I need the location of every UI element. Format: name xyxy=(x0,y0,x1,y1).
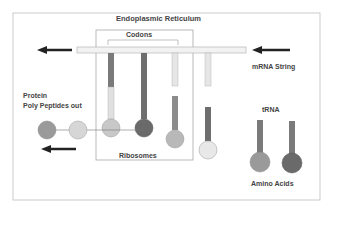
trna-label: tRNA xyxy=(262,106,280,113)
mrna-label: mRNA String xyxy=(252,63,295,70)
er-label: Endoplasmic Reticulum xyxy=(116,14,201,23)
amino-acids-label: Amino Acids xyxy=(251,180,294,187)
trna-1 xyxy=(102,53,120,137)
arrow-left-mrna-icon xyxy=(252,46,290,54)
codons-label: Codons xyxy=(126,31,152,38)
amino-acid-1 xyxy=(250,120,270,172)
codons-bracket xyxy=(108,40,178,45)
protein-label: Protein xyxy=(23,92,47,99)
trna-4 xyxy=(199,53,217,159)
polypeptides-label: Poly Peptides out xyxy=(23,102,82,109)
arrow-left-protein-icon xyxy=(41,145,76,153)
peptide-chain xyxy=(38,121,144,139)
trna-2 xyxy=(135,53,153,137)
mrna-bar xyxy=(77,47,246,53)
ribosomes-label: Ribosomes xyxy=(119,152,157,159)
arrow-left-top-icon xyxy=(37,46,72,54)
amino-acid-2 xyxy=(282,121,302,173)
diagram-graphics xyxy=(0,0,340,226)
trna-3 xyxy=(166,53,184,148)
